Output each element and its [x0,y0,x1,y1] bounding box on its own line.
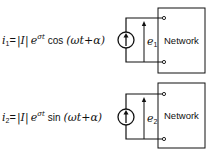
circuit-diagram: i1=|I|eσtcos(ωt+α) e1 Network i2=|I|eσts… [0,0,211,155]
equation-2: i2=|I|eσtsin(ωt+α) [2,110,102,125]
voltage-label-2: e2 [147,112,158,125]
voltage-arrow-icon [142,21,146,62]
voltage-label-1: e1 [147,35,158,48]
terminal-icon [162,92,165,95]
circuit-1: i1=|I|eσtcos(ωt+α) e1 Network [2,8,205,73]
network-label-2: Network [164,110,199,121]
terminal-icon [162,137,165,140]
current-source-icon [118,32,134,48]
equation-1: i1=|I|eσtcos(ωt+α) [2,33,105,48]
network-label-1: Network [164,35,199,46]
voltage-arrow-icon [142,97,146,139]
current-source-icon [118,109,134,125]
circuit-2: i2=|I|eσtsin(ωt+α) e2 Network [2,83,205,148]
terminal-icon [162,16,165,19]
terminal-icon [162,60,165,63]
